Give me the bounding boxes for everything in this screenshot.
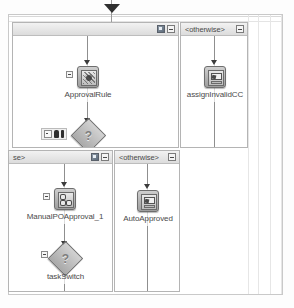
collapse-icon[interactable] (236, 25, 244, 33)
auto-approved-shape[interactable] (137, 190, 159, 212)
panel-top-left-header[interactable] (13, 23, 178, 36)
arrowhead-icon (211, 60, 217, 65)
panel-bottom-right[interactable]: <otherwise> AutoApproved (114, 150, 180, 292)
connector-auto-approved-out (147, 226, 148, 291)
entry-arrow-icon (104, 4, 120, 13)
approval-rule-shape[interactable] (77, 66, 99, 88)
task-switch-expand-toggle[interactable] (41, 251, 48, 258)
panel-top-right-header[interactable]: <otherwise> (181, 23, 247, 36)
task-switch-shape[interactable]: ? (48, 241, 83, 276)
collapse-icon[interactable] (167, 25, 175, 33)
panel-bottom-right-body[interactable]: AutoApproved (115, 164, 179, 291)
assign-task-icon (208, 70, 224, 86)
margin-divider (270, 15, 271, 294)
node-assign-invalid-cc-label: assignInvalidCC (187, 90, 243, 99)
workflow-canvas[interactable]: ApprovalRule ? <otherwise> (0, 0, 294, 308)
arrowhead-icon (61, 182, 67, 187)
margin-divider (281, 15, 282, 294)
panel-bottom-left-header-icons[interactable] (91, 153, 110, 161)
assign-invalid-cc-shape[interactable] (204, 66, 226, 88)
grid-icon[interactable] (91, 153, 99, 161)
arrowhead-icon (144, 184, 150, 189)
assign-task-icon (141, 194, 157, 210)
collapse-icon[interactable] (101, 153, 109, 161)
connector-assign-invalid-cc-out (214, 102, 215, 147)
margin-divider (248, 15, 249, 294)
node-auto-approved[interactable]: AutoApproved (137, 190, 159, 212)
approval-decision-shape[interactable]: ? (71, 118, 106, 147)
node-approval-rule[interactable]: ApprovalRule (77, 66, 99, 88)
panel-bottom-right-header-icons[interactable] (168, 153, 177, 161)
panel-top-right[interactable]: <otherwise> assignInvalidCC (180, 22, 248, 148)
node-task-switch-label: taskSwitch (47, 272, 84, 281)
margin-divider (258, 15, 259, 294)
panel-bottom-left-body[interactable]: ManualPOApproval_1 ? taskSwitch (9, 164, 112, 291)
top-divider (9, 16, 282, 17)
node-manual-po-approval-label: ManualPOApproval_1 (27, 212, 103, 221)
node-auto-approved-label: AutoApproved (123, 214, 173, 223)
panel-bottom-left-header[interactable]: se> (9, 151, 112, 164)
panel-top-right-body[interactable]: assignInvalidCC (181, 36, 247, 147)
panel-bottom-right-header[interactable]: <otherwise> (115, 151, 179, 164)
branch-marker-icon[interactable] (61, 130, 64, 138)
decision-question-icon: ? (77, 124, 100, 147)
connector-entry-to-approval-rule (87, 36, 88, 62)
panel-top-left-body[interactable]: ApprovalRule ? (13, 36, 178, 147)
connector-task-switch-out (64, 284, 65, 291)
panel-bottom-left-title: se> (11, 153, 25, 162)
panel-bottom-left[interactable]: se> ManualPOApproval_1 (8, 150, 113, 292)
human-task-icon (58, 192, 74, 208)
connector-to-assign-invalid-cc (214, 36, 215, 62)
collapse-icon[interactable] (168, 153, 176, 161)
manual-po-approval-shape[interactable] (54, 188, 76, 210)
decision-toolbar[interactable] (41, 128, 67, 140)
decision-question-icon: ? (54, 247, 77, 270)
node-approval-rule-label: ApprovalRule (65, 90, 112, 99)
node-assign-invalid-cc[interactable]: assignInvalidCC (204, 66, 226, 88)
node-approval-decision[interactable]: ? (76, 123, 101, 147)
arrowhead-icon (84, 60, 90, 65)
manual-po-approval-expand-toggle[interactable] (43, 193, 50, 200)
branch-marker-icon[interactable] (54, 130, 59, 138)
panel-top-right-header-icons[interactable] (236, 25, 245, 33)
node-task-switch[interactable]: ? taskSwitch (53, 246, 78, 271)
approval-rule-expand-toggle[interactable] (66, 71, 73, 78)
node-manual-po-approval[interactable]: ManualPOApproval_1 (54, 188, 76, 210)
business-rule-icon (81, 70, 97, 86)
decision-expand-toggle[interactable] (44, 130, 52, 138)
panel-top-right-title: <otherwise> (183, 25, 225, 34)
panel-bottom-right-title: <otherwise> (117, 153, 159, 162)
grid-icon[interactable] (157, 25, 165, 33)
panel-top-left-header-icons[interactable] (157, 25, 176, 33)
panel-top-left[interactable]: ApprovalRule ? (12, 22, 179, 148)
